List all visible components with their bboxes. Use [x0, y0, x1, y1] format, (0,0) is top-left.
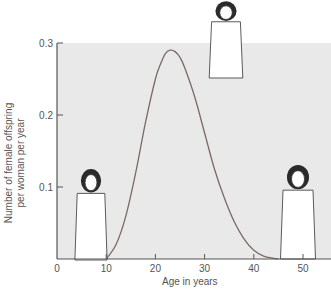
fecundity-chart: 01020304050 0.10.20.3 Age in years Numbe…: [0, 0, 331, 289]
x-tick-label: 20: [150, 263, 162, 274]
x-tick-label: 10: [101, 263, 113, 274]
x-tick-label: 40: [248, 263, 260, 274]
x-tick-label: 50: [297, 263, 309, 274]
y-axis-title-line1: Number of female offspring: [3, 103, 14, 223]
x-tick-label: 0: [54, 263, 60, 274]
x-axis-title: Age in years: [162, 276, 218, 287]
y-tick-label: 0.2: [39, 110, 53, 121]
y-tick-label: 0.3: [39, 38, 53, 49]
y-tick-label: 0.1: [39, 182, 53, 193]
x-tick-label: 30: [199, 263, 211, 274]
y-axis-title-line2: per woman per year: [15, 118, 26, 208]
mother-with-baby-illustration: [209, 1, 243, 78]
